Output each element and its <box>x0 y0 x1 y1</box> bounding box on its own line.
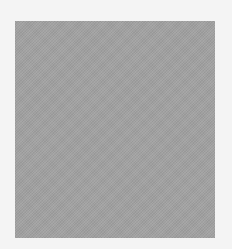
gray-square-swatch <box>15 21 215 238</box>
